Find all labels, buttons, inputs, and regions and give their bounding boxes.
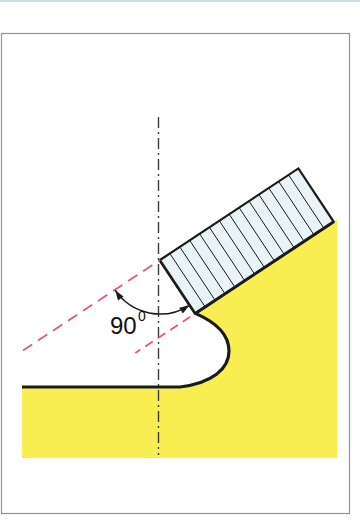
angle-superscript: 0 [138, 308, 146, 324]
diagram-page: 90 0 [0, 0, 360, 530]
page-top-edge [0, 0, 360, 2]
angle-arc [115, 290, 189, 314]
reference-line-upper [23, 260, 160, 351]
arrowhead-right-icon [179, 305, 189, 313]
technical-diagram-svg: 90 0 [0, 0, 360, 530]
angle-label: 90 [110, 312, 137, 339]
